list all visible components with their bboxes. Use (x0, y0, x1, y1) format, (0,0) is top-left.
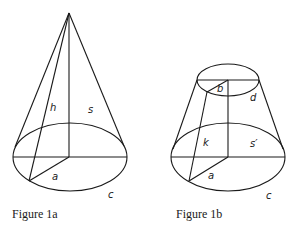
cone-right-edge (69, 13, 124, 146)
figure-1a-cone: h s a c Figure 1a (12, 13, 127, 221)
label-c: c (108, 189, 114, 200)
label-b: b (217, 83, 223, 94)
cone-radius-line (29, 157, 69, 181)
label-a: a (208, 170, 214, 181)
label-k: k (203, 137, 210, 148)
label-s-prime: s′ (250, 138, 258, 149)
frustum-left-edge (173, 80, 197, 149)
label-s: s (88, 104, 93, 115)
caption-figure-1b: Figure 1b (176, 207, 222, 221)
label-c: c (266, 190, 272, 201)
label-h: h (50, 102, 56, 113)
frustum-right-edge (259, 80, 283, 149)
caption-figure-1a: Figure 1a (12, 207, 58, 221)
label-d: d (250, 92, 257, 103)
geometry-diagram: h s a c Figure 1a b d k s′ a c Figure 1b (0, 0, 296, 227)
label-a: a (52, 171, 58, 182)
figure-1b-frustum: b d k s′ a c Figure 1b (171, 64, 285, 221)
